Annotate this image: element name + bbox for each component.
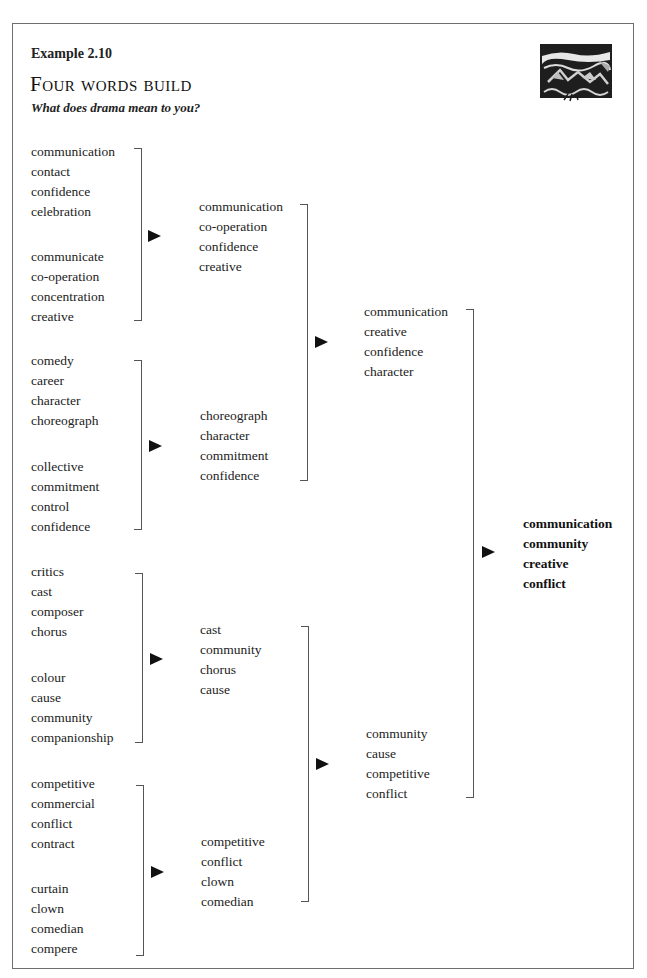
page-subtitle: What does drama mean to you? <box>31 100 200 116</box>
word: chorus <box>200 660 262 680</box>
word: communication <box>199 197 283 217</box>
arrow-right-icon <box>148 230 161 242</box>
word: community <box>31 708 114 728</box>
word: commitment <box>31 477 99 497</box>
word: conflict <box>31 814 95 834</box>
word: communication <box>31 142 115 162</box>
round1-group-4: collective commitment control confidence <box>31 457 99 537</box>
word: community <box>200 640 262 660</box>
word: comedian <box>201 892 265 912</box>
word: contact <box>31 162 115 182</box>
bracket <box>466 309 474 798</box>
round2-group-2: choreograph character commitment confide… <box>200 406 268 486</box>
round1-group-5: critics cast composer chorus <box>31 562 83 642</box>
round1-group-2: communicate co-operation concentration c… <box>31 247 104 327</box>
word: curtain <box>31 879 83 899</box>
word: confidence <box>364 342 448 362</box>
word: creative <box>523 554 612 574</box>
word: colour <box>31 668 114 688</box>
word: confidence <box>31 517 99 537</box>
bracket <box>134 148 142 321</box>
word: conflict <box>201 852 265 872</box>
word: competitive <box>31 774 95 794</box>
word: commercial <box>31 794 95 814</box>
final-words: communication community creative conflic… <box>523 514 612 594</box>
bracket <box>300 204 308 481</box>
word: co-operation <box>31 267 104 287</box>
word: confidence <box>199 237 283 257</box>
word: cast <box>200 620 262 640</box>
word: compere <box>31 939 83 959</box>
arrow-right-icon <box>151 866 164 878</box>
word: creative <box>364 322 448 342</box>
word: communication <box>523 514 612 534</box>
word: career <box>31 371 98 391</box>
word: creative <box>31 307 104 327</box>
round3-group-1: communication creative confidence charac… <box>364 302 448 382</box>
bracket <box>301 626 309 902</box>
round1-group-3: comedy career character choreograph <box>31 351 98 431</box>
example-label: Example 2.10 <box>31 46 112 62</box>
word: conflict <box>366 784 430 804</box>
arrow-right-icon <box>315 336 328 348</box>
round2-group-1: communication co-operation confidence cr… <box>199 197 283 277</box>
word: competitive <box>201 832 265 852</box>
word: character <box>31 391 98 411</box>
word: cause <box>366 744 430 764</box>
word: community <box>366 724 430 744</box>
word: choreograph <box>200 406 268 426</box>
word: comedy <box>31 351 98 371</box>
arrow-right-icon <box>482 546 495 558</box>
word: character <box>364 362 448 382</box>
word: composer <box>31 602 83 622</box>
word: creative <box>199 257 283 277</box>
round1-group-6: colour cause community companionship <box>31 668 114 748</box>
arrow-right-icon <box>150 653 163 665</box>
word: control <box>31 497 99 517</box>
word: cause <box>200 680 262 700</box>
word: comedian <box>31 919 83 939</box>
word: commitment <box>200 446 268 466</box>
word: communication <box>364 302 448 322</box>
word: communicate <box>31 247 104 267</box>
bracket <box>136 785 144 956</box>
word: confidence <box>31 182 115 202</box>
round1-group-7: competitive commercial conflict contract <box>31 774 95 854</box>
word: competitive <box>366 764 430 784</box>
word: conflict <box>523 574 612 594</box>
word: clown <box>201 872 265 892</box>
word: community <box>523 534 612 554</box>
page-title: Four words build <box>30 72 192 97</box>
word: collective <box>31 457 99 477</box>
word: concentration <box>31 287 104 307</box>
word: cast <box>31 582 83 602</box>
word: companionship <box>31 728 114 748</box>
round3-group-2: community cause competitive conflict <box>366 724 430 804</box>
arrow-right-icon <box>316 758 329 770</box>
word: confidence <box>200 466 268 486</box>
round1-group-1: communication contact confidence celebra… <box>31 142 115 222</box>
arrow-right-icon <box>149 440 162 452</box>
round1-group-8: curtain clown comedian compere <box>31 879 83 959</box>
word: choreograph <box>31 411 98 431</box>
bracket <box>134 360 142 530</box>
word: character <box>200 426 268 446</box>
bracket <box>135 573 143 743</box>
word: clown <box>31 899 83 919</box>
word: critics <box>31 562 83 582</box>
round2-group-4: competitive conflict clown comedian <box>201 832 265 912</box>
word: co-operation <box>199 217 283 237</box>
word: cause <box>31 688 114 708</box>
word: chorus <box>31 622 83 642</box>
word: contract <box>31 834 95 854</box>
woodcut-landscape-illustration <box>538 42 614 102</box>
round2-group-3: cast community chorus cause <box>200 620 262 700</box>
word: celebration <box>31 202 115 222</box>
